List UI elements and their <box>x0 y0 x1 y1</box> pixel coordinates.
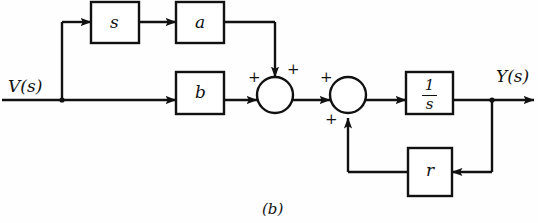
summer-2-circle <box>330 77 366 113</box>
summer-1-sign-top-right: + <box>287 62 300 77</box>
a-block-label: a <box>195 14 205 31</box>
s-block-label: s <box>110 14 119 31</box>
b-block-label: b <box>195 84 206 101</box>
input-branch-node <box>59 97 64 102</box>
integrator-block-label: 1 s <box>406 78 453 113</box>
integrator-numerator: 1 <box>406 78 453 94</box>
input-signal-label: V(s) <box>8 78 42 95</box>
block-diagram-figure: V(s) Y(s) s a b 1 s r + + + + (b) <box>0 0 538 223</box>
r-block-label: r <box>426 162 434 179</box>
integrator-denominator: s <box>406 97 453 113</box>
diagram-canvas <box>0 0 538 223</box>
summer-1-sign-left: + <box>248 70 261 85</box>
figure-caption: (b) <box>262 200 283 218</box>
summer-2-sign-bottom-left: + <box>325 112 338 127</box>
summer-1-circle <box>257 77 293 113</box>
summer-2-sign-left: + <box>320 70 333 85</box>
output-branch-node <box>489 97 494 102</box>
output-signal-label: Y(s) <box>496 68 529 85</box>
